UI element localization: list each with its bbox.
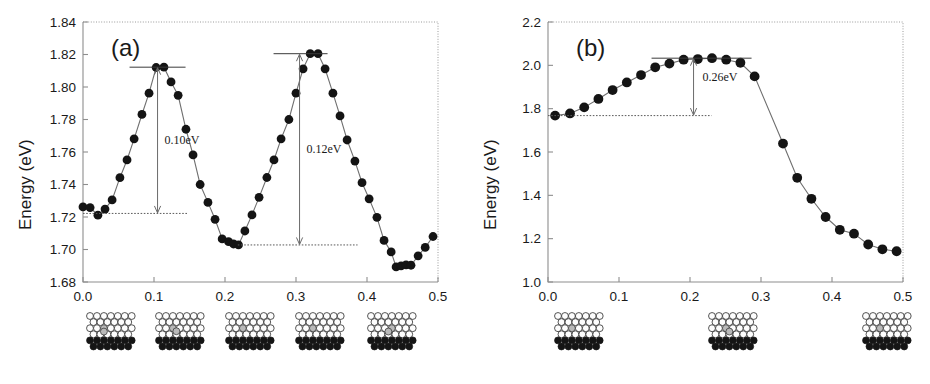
substrate-atom bbox=[236, 343, 243, 350]
substrate-atom bbox=[173, 343, 180, 350]
structure-inset bbox=[555, 313, 604, 350]
substrate-atom bbox=[166, 343, 173, 350]
substrate-atom bbox=[371, 343, 378, 350]
substrate-atom bbox=[402, 337, 409, 344]
data-point bbox=[351, 157, 360, 166]
data-point bbox=[849, 229, 859, 239]
data-point bbox=[138, 110, 147, 119]
substrate-atom bbox=[243, 343, 250, 350]
y-tick-label: 1.4 bbox=[522, 188, 541, 203]
substrate-atom bbox=[880, 343, 887, 350]
data-point bbox=[721, 55, 731, 65]
y-tick-label: 1.84 bbox=[50, 15, 77, 30]
surface-atom bbox=[406, 331, 413, 338]
substrate-atom bbox=[368, 337, 375, 344]
surface-atom bbox=[236, 331, 243, 338]
substrate-atom bbox=[264, 343, 271, 350]
substrate-atom bbox=[747, 343, 754, 350]
x-tick-label: 0.2 bbox=[216, 289, 235, 304]
data-point bbox=[650, 62, 660, 72]
barrier-label: 0.10eV bbox=[165, 133, 200, 147]
data-point bbox=[750, 71, 760, 81]
data-point bbox=[116, 173, 125, 182]
data-point bbox=[167, 78, 176, 87]
y-tick-label: 1.74 bbox=[50, 177, 77, 192]
data-point bbox=[189, 151, 198, 160]
substrate-atom bbox=[197, 337, 204, 344]
data-point bbox=[693, 54, 703, 64]
substrate-atom bbox=[596, 337, 603, 344]
substrate-atom bbox=[716, 337, 723, 344]
substrate-atom bbox=[593, 343, 600, 350]
migrating-atom bbox=[173, 328, 180, 335]
substrate-atom bbox=[128, 337, 135, 344]
substrate-atom bbox=[226, 337, 233, 344]
data-point bbox=[94, 211, 103, 220]
data-point bbox=[594, 94, 604, 104]
data-point bbox=[792, 173, 802, 183]
substrate-atom bbox=[94, 337, 101, 344]
surface-atom bbox=[90, 331, 97, 338]
x-tick-label: 0.5 bbox=[429, 289, 448, 304]
substrate-atom bbox=[897, 337, 904, 344]
substrate-atom bbox=[863, 337, 870, 344]
barrier-label: 0.12eV bbox=[307, 142, 342, 156]
y-tick-label: 2.0 bbox=[522, 58, 541, 73]
data-point bbox=[373, 213, 382, 222]
data-point bbox=[101, 205, 110, 214]
data-point bbox=[262, 173, 271, 182]
data-curve bbox=[83, 54, 433, 267]
structure-inset bbox=[226, 313, 275, 350]
data-point bbox=[407, 261, 416, 270]
data-point bbox=[878, 244, 888, 254]
surface-atom bbox=[250, 331, 257, 338]
surface-atom bbox=[320, 331, 327, 338]
data-point bbox=[579, 102, 589, 112]
substrate-atom bbox=[901, 343, 908, 350]
surface-atom bbox=[712, 331, 719, 338]
y-tick-label: 1.68 bbox=[50, 275, 76, 290]
x-tick-label: 0.0 bbox=[74, 289, 93, 304]
data-point bbox=[778, 139, 788, 149]
substrate-atom bbox=[323, 337, 330, 344]
substrate-atom bbox=[90, 343, 97, 350]
substrate-atom bbox=[395, 337, 402, 344]
substrate-atom bbox=[97, 343, 104, 350]
data-point bbox=[358, 178, 367, 187]
barrier-label: 0.26eV bbox=[703, 70, 738, 84]
surface-atom bbox=[565, 331, 572, 338]
migrating-atom bbox=[100, 328, 107, 335]
surface-atom bbox=[334, 331, 341, 338]
data-point bbox=[336, 112, 345, 121]
substrate-atom bbox=[299, 343, 306, 350]
substrate-atom bbox=[180, 343, 187, 350]
migrating-atom bbox=[726, 328, 733, 335]
surface-atom bbox=[880, 331, 887, 338]
surface-atom bbox=[873, 331, 880, 338]
data-point bbox=[145, 89, 154, 98]
substrate-atom bbox=[163, 337, 170, 344]
y-tick-label: 1.82 bbox=[50, 47, 76, 62]
surface-atom bbox=[866, 331, 873, 338]
data-point bbox=[414, 251, 423, 260]
x-tick-label: 0.3 bbox=[287, 289, 306, 304]
substrate-atom bbox=[409, 337, 416, 344]
data-point bbox=[130, 134, 139, 143]
substrate-atom bbox=[890, 337, 897, 344]
substrate-atom bbox=[729, 337, 736, 344]
substrate-atom bbox=[260, 337, 267, 344]
structure-inset bbox=[296, 313, 345, 350]
substrate-atom bbox=[392, 343, 399, 350]
data-point bbox=[174, 91, 183, 100]
substrate-atom bbox=[726, 343, 733, 350]
substrate-atom bbox=[406, 343, 413, 350]
data-point bbox=[429, 232, 438, 241]
substrate-atom bbox=[176, 337, 183, 344]
figure-root: Energy (eV) 1.681.701.721.741.761.781.80… bbox=[0, 0, 930, 384]
substrate-atom bbox=[334, 343, 341, 350]
substrate-atom bbox=[309, 337, 316, 344]
substrate-atom bbox=[733, 343, 740, 350]
data-curve bbox=[555, 58, 897, 251]
data-point bbox=[285, 115, 294, 124]
x-tick-label: 0.5 bbox=[894, 289, 913, 304]
